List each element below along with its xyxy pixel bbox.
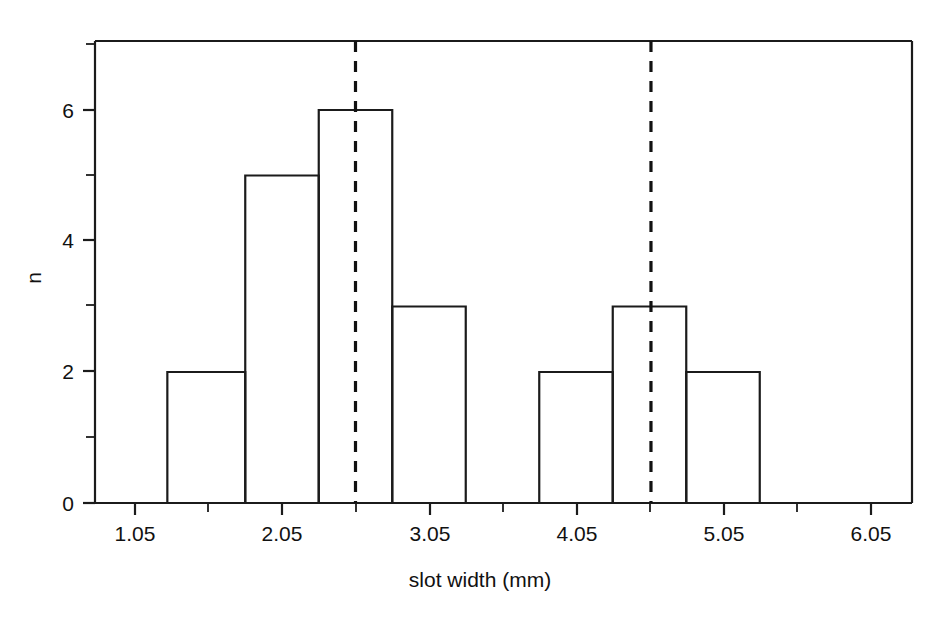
x-tick-label-5-05: 5.05 <box>704 522 745 545</box>
y-tick-label-2: 2 <box>62 360 74 383</box>
x-axis-tick-labels: 1.05 2.05 3.05 4.05 5.05 6.05 <box>115 522 892 545</box>
histogram-bar <box>245 176 319 504</box>
histogram-bar <box>392 307 466 504</box>
histogram-bar <box>167 372 245 503</box>
histogram-bar <box>539 372 613 503</box>
x-tick-label-2-05: 2.05 <box>262 522 303 545</box>
x-axis-minor-ticks <box>208 503 797 512</box>
y-tick-label-6: 6 <box>62 99 74 122</box>
cut-lines <box>356 41 651 503</box>
y-tick-label-0: 0 <box>62 492 74 515</box>
y-axis-title: n <box>22 272 45 284</box>
y-axis-tick-labels: 0 2 4 6 <box>62 99 74 515</box>
y-axis-ticks <box>83 44 95 503</box>
x-tick-label-1-05: 1.05 <box>115 522 156 545</box>
x-tick-label-4-05: 4.05 <box>557 522 598 545</box>
histogram-bar <box>686 372 760 503</box>
x-tick-label-3-05: 3.05 <box>410 522 451 545</box>
histogram-figure: 0 2 4 6 n 1.05 2.05 3.05 <box>0 0 948 629</box>
x-axis-title: slot width (mm) <box>409 568 551 591</box>
histogram-plot: 0 2 4 6 n 1.05 2.05 3.05 <box>0 0 948 629</box>
histogram-bars <box>167 110 759 503</box>
plot-frame <box>95 41 912 503</box>
x-tick-label-6-05: 6.05 <box>851 522 892 545</box>
y-tick-label-4: 4 <box>62 229 74 252</box>
